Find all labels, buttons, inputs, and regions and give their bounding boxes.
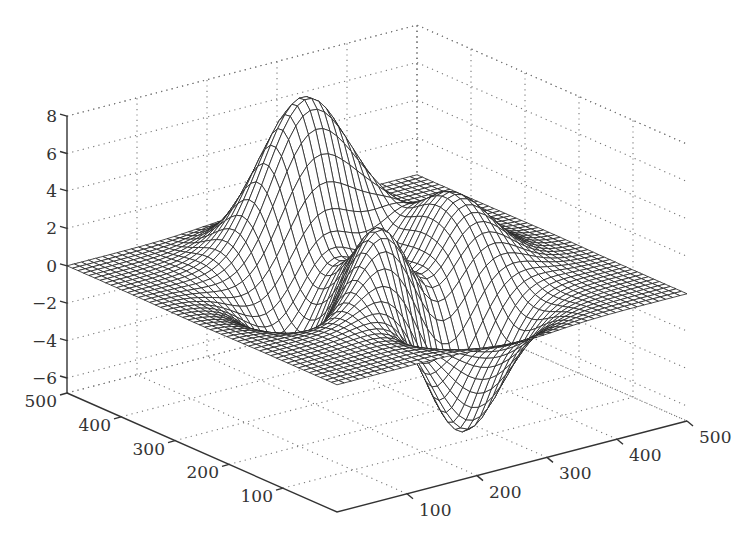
z-axis-tick-labels: 8 6 4 2 0 −2 −4 −6	[32, 106, 57, 388]
z-tick-mark	[60, 264, 67, 266]
x-floor-gridline	[137, 375, 407, 494]
z-gridline	[67, 25, 687, 144]
z-tick-label: 4	[46, 181, 57, 201]
z-tick-mark	[60, 301, 67, 303]
z-tick-label: 6	[46, 144, 57, 164]
x-tick-mark	[407, 494, 413, 499]
x-tick-mark	[687, 421, 693, 426]
x-tick-label: 400	[629, 445, 661, 465]
z-tick-mark	[60, 376, 67, 378]
z-tick-mark	[60, 226, 67, 228]
surface-mesh-chart: 8 6 4 2 0 −2 −4 −6 100 200 300 400 500 1…	[0, 0, 753, 548]
y-tick-mark	[114, 417, 121, 419]
x-tick-label: 200	[489, 482, 521, 502]
z-tick-label: 8	[46, 106, 57, 126]
top-gridline	[67, 25, 687, 144]
y-axis-tick-labels: 100 200 300 400 500	[25, 391, 273, 506]
z-tick-label: −4	[32, 331, 57, 351]
x-tick-label: 500	[699, 427, 731, 447]
y-tick-label: 500	[25, 391, 57, 411]
y-tick-mark	[222, 464, 229, 466]
z-tick-mark	[60, 189, 67, 191]
z-tick-mark	[60, 152, 67, 154]
z-tick-label: −2	[32, 293, 57, 313]
y-tick-label: 400	[79, 415, 111, 435]
x-tick-mark	[477, 476, 483, 481]
z-tick-mark	[60, 114, 67, 116]
x-tick-mark	[617, 439, 623, 444]
z-tick-label: 0	[46, 256, 57, 276]
peaks-mesh-surface	[67, 97, 687, 432]
z-tick-mark	[60, 339, 67, 341]
x-axis-tick-labels: 100 200 300 400 500	[419, 427, 731, 520]
z-gridline	[67, 63, 687, 182]
y-floor-gridline	[229, 373, 579, 464]
y-tick-label: 100	[241, 486, 273, 506]
z-tick-label: −6	[32, 368, 57, 388]
y-tick-label: 300	[133, 439, 165, 459]
x-tick-mark	[547, 457, 553, 462]
x-tick-label: 100	[419, 500, 451, 520]
z-tick-label: 2	[46, 218, 57, 238]
y-tick-mark	[276, 488, 283, 490]
y-tick-label: 200	[187, 462, 219, 482]
x-tick-label: 300	[559, 463, 591, 483]
y-tick-mark	[168, 441, 175, 443]
y-tick-mark	[60, 393, 67, 395]
